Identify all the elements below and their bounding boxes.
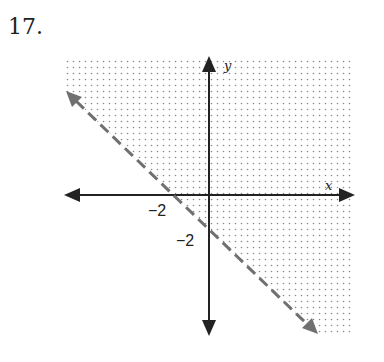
y-tick-label: −2 <box>176 232 194 249</box>
x-tick-label: −2 <box>148 202 166 219</box>
y-axis-label: y <box>223 58 232 73</box>
y-axis-down-arrow-icon <box>202 320 216 336</box>
x-axis-label: x <box>325 178 333 193</box>
x-axis-left-arrow-icon <box>64 188 80 202</box>
inequality-graph: y x −2 −2 <box>0 0 384 362</box>
